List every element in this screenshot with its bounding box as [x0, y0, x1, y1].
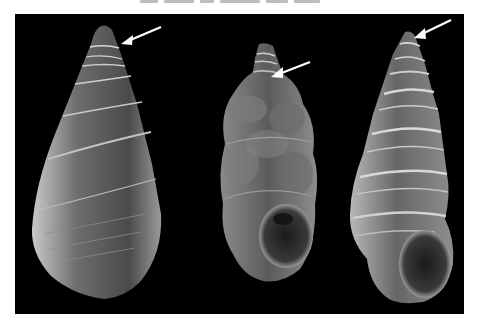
- shell-left: [32, 26, 161, 300]
- shell-right: [350, 32, 453, 304]
- arrow-right: [414, 20, 451, 39]
- shell-middle: [220, 43, 317, 281]
- sem-image-panel: [15, 14, 464, 314]
- specimen-illustration: [15, 14, 464, 314]
- aperture-right: [399, 230, 451, 298]
- cropped-caption-line: [140, 0, 340, 5]
- arrow-left: [121, 27, 161, 45]
